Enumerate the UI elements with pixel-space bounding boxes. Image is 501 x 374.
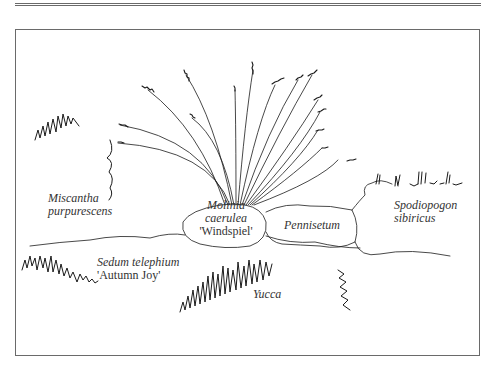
label-pennisetum: Pennisetum [284, 219, 340, 232]
label-spodiopogon-line2: sibiricus [394, 212, 457, 225]
label-sedum: Sedum telephium 'Autumn Joy' [97, 256, 179, 282]
label-sedum-line2: 'Autumn Joy' [97, 269, 179, 282]
planting-illustration [0, 0, 501, 374]
label-miscantha-line2: purpurescens [48, 205, 112, 218]
label-molinia-line3: 'Windspiel' [196, 225, 256, 238]
label-yucca-text: Yucca [253, 287, 281, 301]
label-miscantha: Miscantha purpurescens [48, 192, 112, 218]
label-pennisetum-text: Pennisetum [284, 218, 340, 232]
label-yucca: Yucca [253, 288, 281, 301]
molinia-plumes [118, 62, 356, 161]
miscantha-grass [35, 114, 112, 200]
label-spodiopogon: Spodiopogon sibiricus [394, 199, 457, 225]
spodiopogon-grass-tufts [376, 172, 462, 186]
sedum-foliage [22, 256, 98, 283]
label-molinia: Molinia caerulea 'Windspiel' [196, 199, 256, 238]
yucca-foliage [180, 260, 350, 312]
molinia-grass-stems [118, 70, 338, 205]
